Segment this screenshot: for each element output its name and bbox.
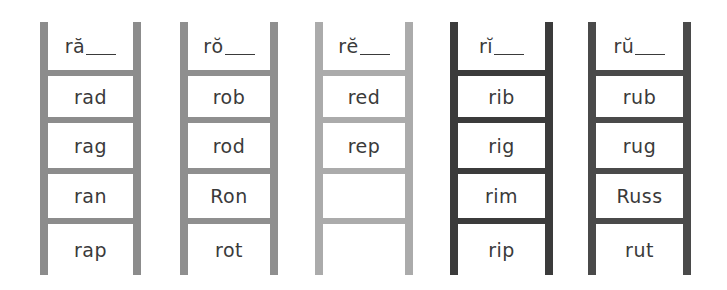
fill-in-blank-line: [86, 38, 116, 55]
word-cell: rim: [458, 174, 545, 218]
word-cell: rib: [458, 76, 545, 117]
word-text: rig: [488, 135, 515, 157]
word-cell: rot: [188, 224, 270, 275]
vowel-sound-label: rŭ: [614, 35, 635, 57]
ladder-rail-left: [315, 22, 323, 275]
word-text: rap: [74, 239, 107, 261]
word-cell: Russ: [596, 174, 683, 218]
word-text: rug: [623, 135, 656, 157]
fill-in-blank-line: [225, 38, 255, 55]
word-text: rip: [488, 239, 515, 261]
ladder-3: rĕredrep: [315, 22, 413, 275]
ladder-header: ră: [48, 22, 133, 70]
vowel-sound-label: rĕ: [338, 35, 359, 57]
vowel-sound-label: rĭ: [479, 35, 493, 57]
ladder-rail-left: [40, 22, 48, 275]
ladder-rail-left: [588, 22, 596, 275]
word-cell: rap: [48, 224, 133, 275]
word-text: rub: [623, 86, 656, 108]
word-cell: rub: [596, 76, 683, 117]
ladder-header: rŭ: [596, 22, 683, 70]
word-text: ran: [74, 185, 107, 207]
word-cell: rob: [188, 76, 270, 117]
vowel-sound-label: ră: [65, 35, 85, 57]
word-cell: rig: [458, 123, 545, 168]
ladder-rail-right: [133, 22, 141, 275]
word-text: rep: [348, 135, 381, 157]
ladder-rail-left: [180, 22, 188, 275]
word-text: red: [348, 86, 381, 108]
ladder-4: rĭribrigrimrip: [450, 22, 553, 275]
word-cell: rip: [458, 224, 545, 275]
ladder-2: rŏrobrodRonrot: [180, 22, 278, 275]
ladder-header: rĭ: [458, 22, 545, 70]
empty-word-cell: [323, 174, 405, 218]
ladder-rail-right: [270, 22, 278, 275]
word-cell: rut: [596, 224, 683, 275]
word-text: rut: [625, 239, 654, 261]
fill-in-blank-line: [635, 38, 665, 55]
word-cell: rug: [596, 123, 683, 168]
fill-in-blank-line: [494, 38, 524, 55]
ladder-header: rĕ: [323, 22, 405, 70]
ladder-rail-right: [683, 22, 691, 275]
word-cell: ran: [48, 174, 133, 218]
ladder-rail-right: [405, 22, 413, 275]
word-text: rim: [485, 185, 518, 207]
word-text: rad: [74, 86, 107, 108]
empty-word-cell: [323, 224, 405, 275]
word-text: rot: [215, 239, 243, 261]
ladder-1: răradragranrap: [40, 22, 141, 275]
word-cell: rep: [323, 123, 405, 168]
ladder-5: rŭrubrugRussrut: [588, 22, 691, 275]
word-text: rod: [213, 135, 246, 157]
ladder-header: rŏ: [188, 22, 270, 70]
word-text: Russ: [616, 185, 662, 207]
word-text: rob: [213, 86, 246, 108]
word-text: rag: [74, 135, 107, 157]
word-cell: rad: [48, 76, 133, 117]
word-cell: red: [323, 76, 405, 117]
word-text: Ron: [210, 185, 248, 207]
ladder-rail-right: [545, 22, 553, 275]
vowel-sound-label: rŏ: [203, 35, 223, 57]
fill-in-blank-line: [360, 38, 390, 55]
word-cell: Ron: [188, 174, 270, 218]
word-text: rib: [488, 86, 515, 108]
word-cell: rag: [48, 123, 133, 168]
ladder-rail-left: [450, 22, 458, 275]
word-cell: rod: [188, 123, 270, 168]
